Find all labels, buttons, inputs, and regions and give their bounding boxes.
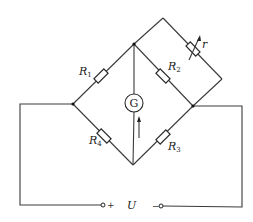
source-voltage-label: U <box>127 199 137 212</box>
wire-r-branch-return <box>193 79 222 106</box>
bridge-circuit-diagram: G R1 R2 R3 R4 r + − U <box>0 0 253 222</box>
terminal-minus <box>159 204 163 208</box>
arrow-head-icon <box>137 116 141 122</box>
plus-sign: + <box>107 200 115 210</box>
wire-supply-left <box>20 104 101 205</box>
r3-label: R3 <box>167 140 181 154</box>
minus-sign: − <box>152 201 160 211</box>
node-top <box>132 42 135 45</box>
variable-arrow-head-icon <box>197 35 201 41</box>
resistor-r1 <box>94 69 108 83</box>
r2-label: R2 <box>167 60 181 74</box>
wire-galvanometer-bottom <box>133 112 134 165</box>
variable-resistor-r <box>186 42 200 56</box>
r1-label: R1 <box>78 65 92 79</box>
wire-r-branch-up <box>134 18 163 44</box>
node-left <box>71 102 74 105</box>
node-right <box>191 104 194 107</box>
r-label: r <box>202 38 208 51</box>
terminal-plus <box>101 203 105 207</box>
wire-supply-right <box>163 106 242 207</box>
galvanometer-label: G <box>130 97 139 110</box>
